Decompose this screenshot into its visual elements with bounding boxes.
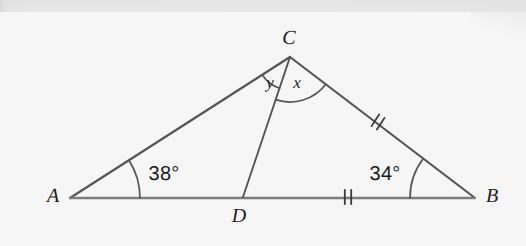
angle-at-B-label: 34°	[370, 163, 401, 186]
angle-ACD-label: y	[266, 73, 274, 93]
angle-at-B-arc	[410, 159, 423, 198]
vertex-label-A: A	[47, 185, 59, 208]
side-AC	[70, 57, 290, 198]
vertex-label-D: D	[232, 205, 246, 228]
angle-DCB-label: x	[293, 73, 301, 93]
diagram-page: ABCD38°34°yx	[0, 0, 526, 246]
triangle-figure	[0, 0, 526, 246]
vertex-label-B: B	[486, 185, 498, 208]
angle-at-A-label: 38°	[149, 163, 180, 186]
congruence-marks-group	[345, 114, 385, 204]
angle-at-A-arc	[129, 160, 140, 198]
vertex-label-C: C	[282, 27, 295, 50]
